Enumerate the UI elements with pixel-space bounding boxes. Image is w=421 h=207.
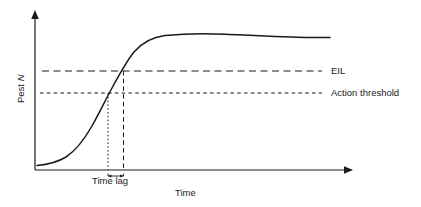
- pest-population-curve: [37, 34, 330, 166]
- pest-population-chart: EIL Action threshold Time lag Time Pest …: [0, 0, 421, 207]
- y-axis-label: Pest N: [16, 59, 26, 119]
- eil-label: EIL: [331, 66, 345, 76]
- action-threshold-label: Action threshold: [331, 88, 399, 98]
- y-axis-arrow-icon: [31, 10, 39, 19]
- x-axis-label: Time: [175, 188, 196, 198]
- x-axis-arrow-icon: [344, 166, 353, 174]
- y-axis-label-text: Pest: [15, 84, 26, 103]
- chart-canvas: [0, 0, 421, 207]
- y-axis-label-variable: N: [15, 74, 26, 81]
- time-lag-label: Time lag: [92, 176, 128, 186]
